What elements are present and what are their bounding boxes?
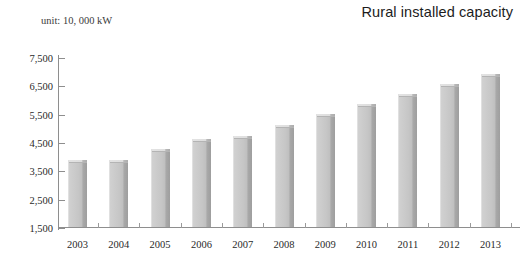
bar — [68, 160, 87, 227]
y-tick-label: 4,500 — [29, 138, 53, 149]
y-tick — [58, 58, 65, 59]
x-tick-label: 2003 — [67, 239, 88, 250]
x-tick-label: 2013 — [480, 239, 501, 250]
x-tick — [139, 223, 140, 228]
x-axis-line — [58, 227, 520, 228]
y-tick-label: 3,500 — [29, 166, 53, 177]
x-tick — [428, 223, 429, 228]
y-tick — [58, 143, 65, 144]
y-tick-label: 6,500 — [29, 81, 53, 92]
x-tick — [511, 223, 512, 228]
bar — [357, 104, 376, 227]
x-tick-label: 2012 — [439, 239, 460, 250]
x-tick-label: 2011 — [398, 239, 419, 250]
bar — [440, 84, 459, 227]
x-tick — [98, 223, 99, 228]
y-tick-label: 7,500 — [29, 53, 53, 64]
x-tick — [470, 223, 471, 228]
bar — [151, 149, 170, 227]
x-tick-label: 2010 — [356, 239, 377, 250]
y-tick-label: 2,500 — [29, 194, 53, 205]
x-tick-label: 2005 — [150, 239, 171, 250]
bar — [275, 125, 294, 227]
bar — [398, 94, 417, 227]
y-tick — [58, 228, 65, 229]
x-tick — [387, 223, 388, 228]
chart-title: Rural installed capacity — [362, 4, 514, 20]
plot-area: 1,5002,5003,5004,5005,5006,5007,500 2003… — [58, 57, 520, 228]
y-tick-label: 1,500 — [29, 223, 53, 234]
bar — [481, 74, 500, 227]
x-tick — [222, 223, 223, 228]
x-tick-label: 2008 — [274, 239, 295, 250]
bar — [192, 139, 211, 227]
unit-label: unit: 10, 000 kW — [41, 15, 112, 26]
y-tick — [58, 200, 65, 201]
x-tick-label: 2004 — [108, 239, 129, 250]
x-tick-label: 2007 — [232, 239, 253, 250]
y-tick — [58, 86, 65, 87]
x-tick — [346, 223, 347, 228]
x-tick — [305, 223, 306, 228]
bar — [316, 114, 335, 227]
chart-container: Rural installed capacity unit: 10, 000 k… — [0, 0, 527, 262]
y-tick-label: 5,500 — [29, 109, 53, 120]
x-tick-label: 2009 — [315, 239, 336, 250]
y-tick — [58, 171, 65, 172]
x-tick — [263, 223, 264, 228]
bar — [233, 136, 252, 227]
y-tick — [58, 115, 65, 116]
x-tick — [181, 223, 182, 228]
x-tick-label: 2006 — [191, 239, 212, 250]
bar — [109, 160, 128, 227]
